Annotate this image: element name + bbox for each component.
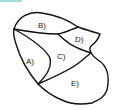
b-lower-border xyxy=(14,27,78,34)
region-label-e: E) xyxy=(71,79,79,88)
region-label-d: D) xyxy=(75,35,84,44)
region-label-c: C) xyxy=(57,52,66,61)
region-diagram: B) D) C) A) E) xyxy=(0,0,115,110)
region-label-b: B) xyxy=(38,21,46,30)
region-label-a: A) xyxy=(26,57,34,66)
